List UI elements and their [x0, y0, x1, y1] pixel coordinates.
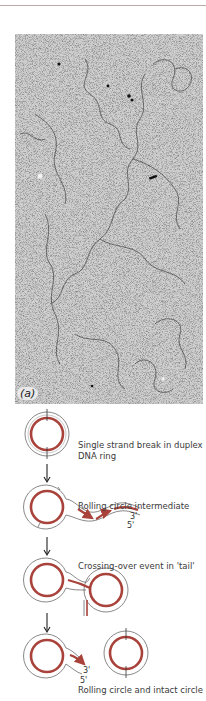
- step2-three-prime-label: 3': [130, 512, 137, 521]
- step2-caption: Rolling circle intermediate: [78, 501, 189, 512]
- step3-caption: Crossing-over event in 'tail': [78, 561, 195, 572]
- step1-caption-line2: DNA ring: [78, 451, 203, 462]
- rolling-circle-diagram: Single strand break in duplex DNA ring R…: [0, 404, 206, 701]
- micrograph-texture: [15, 34, 203, 404]
- electron-micrograph: (a): [15, 34, 203, 404]
- step1-caption: Single strand break in duplex DNA ring: [78, 440, 203, 461]
- page-top-rule: [0, 5, 206, 6]
- step1-caption-line1: Single strand break in duplex: [78, 440, 203, 451]
- step4-caption: Rolling circle and intact circle: [78, 685, 203, 696]
- step4-five-prime-label: 5': [80, 676, 87, 685]
- step4-three-prime-label: 3': [83, 666, 90, 675]
- step1-duplex-ring: [25, 409, 69, 459]
- panel-label: (a): [17, 387, 38, 400]
- step2-five-prime-label: 5': [127, 521, 134, 530]
